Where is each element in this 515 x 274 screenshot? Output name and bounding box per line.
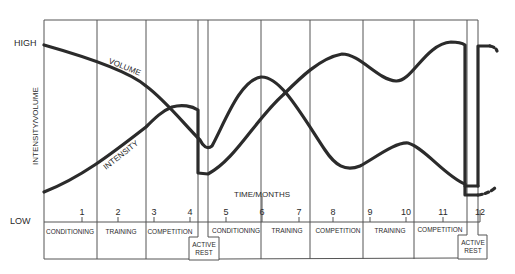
tick-labels: 1 2 3 4 5 6 7 8 9 10 11 12 xyxy=(79,207,485,217)
phase-label: CONDITIONING xyxy=(212,227,260,234)
y-axis-label: INTENSITY/VOLUME xyxy=(31,87,40,165)
phase-label: TRAINING xyxy=(105,228,136,235)
phase-label: TRAINING xyxy=(271,227,302,234)
tick-label: 6 xyxy=(259,207,264,217)
active-rest-2-rest: REST xyxy=(464,247,481,254)
next-cycle-dash-bottom xyxy=(478,187,496,195)
tick-label: 5 xyxy=(223,207,228,217)
tick-label: 12 xyxy=(475,207,485,217)
phase-label: COMPETITION xyxy=(417,226,462,233)
phase-labels: CONDITIONING TRAINING COMPETITION CONDIT… xyxy=(46,226,463,235)
low-label: LOW xyxy=(10,216,31,226)
next-cycle-dash-top xyxy=(490,46,497,51)
active-rest-2-active: ACTIVE xyxy=(461,239,485,246)
phase-label: COMPETITION xyxy=(315,227,360,234)
tick-label: 4 xyxy=(187,207,192,217)
tick-label: 9 xyxy=(367,207,372,217)
phase-label: CONDITIONING xyxy=(46,228,94,235)
transition-bracket xyxy=(478,46,490,186)
active-rest-1-active: ACTIVE xyxy=(192,241,216,248)
tick-label: 3 xyxy=(151,207,156,217)
tick-label: 1 xyxy=(79,207,84,217)
tick-label: 2 xyxy=(115,207,120,217)
active-rest-1-rest: REST xyxy=(195,249,212,256)
phase-label: TRAINING xyxy=(374,227,405,234)
high-label: HIGH xyxy=(14,38,37,48)
tick-label: 10 xyxy=(401,207,411,217)
phase-label: COMPETITION xyxy=(147,228,192,235)
tick-label: 11 xyxy=(438,207,447,217)
x-axis-label: TIME/MONTHS xyxy=(234,190,290,199)
periodization-diagram: HIGH LOW INTENSITY/VOLUME VOLUME INTENSI… xyxy=(0,0,515,274)
tick-label: 8 xyxy=(330,207,335,217)
tick-label: 7 xyxy=(296,207,301,217)
